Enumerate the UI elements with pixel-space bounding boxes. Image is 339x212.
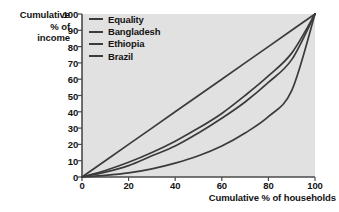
x-tick-label-60: 60 (217, 180, 227, 191)
legend-line-swatch-icon (89, 31, 103, 33)
x-axis-title: Cumulative % of households (140, 192, 336, 203)
x-tick-label-40: 40 (170, 180, 180, 191)
x-tick-label-20: 20 (124, 180, 134, 191)
legend-label-equality: Equality (108, 14, 144, 25)
legend-line-swatch-icon (89, 18, 103, 20)
legend-label-ethiopia: Ethiopia (108, 38, 144, 49)
chart-legend: Equality Bangladesh Ethiopia Brazil (89, 13, 160, 63)
legend-item-equality: Equality (89, 13, 160, 25)
x-tick-label-100: 100 (307, 180, 322, 191)
legend-item-brazil: Brazil (89, 50, 160, 62)
legend-line-swatch-icon (89, 43, 103, 45)
legend-label-bangladesh: Bangladesh (108, 26, 160, 37)
x-tick-label-0: 0 (79, 180, 84, 191)
lorenz-curve-chart: Cumulative % of income 100 90 80 70 60 5… (0, 0, 339, 212)
legend-line-swatch-icon (89, 55, 103, 57)
legend-item-ethiopia: Ethiopia (89, 38, 160, 50)
legend-label-brazil: Brazil (108, 51, 133, 62)
legend-item-bangladesh: Bangladesh (89, 25, 160, 37)
x-tick-label-80: 80 (263, 180, 273, 191)
